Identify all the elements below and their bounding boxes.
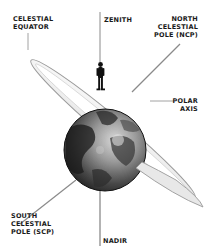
polar-axis-label: POLAR AXIS [173,97,198,113]
ncp-label: NORTH CELESTIAL POLE (NCP) [154,15,198,40]
zenith-label: ZENITH [104,16,132,24]
observer-figure [97,62,106,90]
nadir-label: NADIR [103,237,127,245]
celestial-equator-label: CELESTIAL EQUATOR [13,15,53,31]
scp-label: SOUTH CELESTIAL POLE (SCP) [11,212,54,237]
earth-globe [64,109,146,191]
ncp-axis-line [132,44,180,92]
